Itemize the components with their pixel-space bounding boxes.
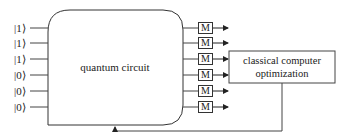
input-state-3: |1⟩ xyxy=(14,53,26,65)
classical-label-line1: classical computer xyxy=(229,54,335,67)
measurement-box-4: M xyxy=(198,69,213,81)
classical-label-line2: optimization xyxy=(229,67,335,80)
input-state-4: |0⟩ xyxy=(14,69,26,81)
measurement-box-3: M xyxy=(198,53,213,65)
measurement-arrows xyxy=(213,28,228,107)
variational-quantum-diagram: |1⟩ |1⟩ |1⟩ |0⟩ |0⟩ |0⟩ quantum circuit … xyxy=(0,0,349,138)
measurement-box-1: M xyxy=(198,22,213,34)
quantum-circuit-label: quantum circuit xyxy=(60,61,170,73)
input-state-1: |1⟩ xyxy=(14,22,26,34)
input-state-5: |0⟩ xyxy=(14,85,26,97)
measurement-box-2: M xyxy=(198,37,213,49)
input-state-6: |0⟩ xyxy=(14,101,26,113)
output-wires xyxy=(183,28,198,107)
input-state-2: |1⟩ xyxy=(14,37,26,49)
measurement-box-6: M xyxy=(198,101,213,113)
input-wires xyxy=(30,28,48,107)
measurement-box-5: M xyxy=(198,85,213,97)
